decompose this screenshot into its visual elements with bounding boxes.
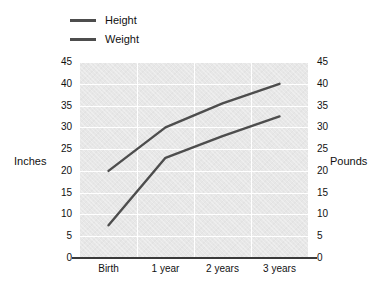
y-axis-right-tick-label: 15 — [317, 188, 339, 198]
legend-label-height: Height — [105, 15, 137, 26]
growth-chart: Height Weight Inches Pounds 454035302520… — [0, 0, 390, 297]
legend-label-weight: Weight — [105, 34, 139, 45]
y-axis-right-tick-label: 40 — [317, 79, 339, 89]
y-axis-right-tick-label: 0 — [317, 253, 339, 263]
chart-legend: Height Weight — [70, 14, 139, 46]
y-axis-right-tick-label: 5 — [317, 231, 339, 241]
x-axis-tick-label: 2 years — [206, 264, 239, 274]
y-axis-right-tick-label: 25 — [317, 144, 339, 154]
y-axis-right-tick-label: 30 — [317, 122, 339, 132]
y-axis-right-tick-label: 20 — [317, 166, 339, 176]
y-axis-right-tick-label: 45 — [317, 57, 339, 67]
x-axis-tick-label: 3 years — [263, 264, 296, 274]
plot-area — [80, 62, 308, 258]
y-axis-left-tick-label: 0 — [50, 253, 72, 263]
y-axis-left-tick-label: 40 — [50, 79, 72, 89]
y-axis-left-tick-label: 5 — [50, 231, 72, 241]
x-axis-line — [72, 257, 317, 259]
y-axis-right-tick-label: 10 — [317, 209, 339, 219]
y-axis-left-tick-label: 15 — [50, 188, 72, 198]
series-line-weight — [109, 116, 280, 225]
y-axis-left-tick-label: 45 — [50, 57, 72, 67]
series-lines — [80, 62, 308, 258]
legend-item-height: Height — [70, 14, 139, 27]
legend-swatch-weight-icon — [70, 38, 96, 41]
y-axis-left-tick-label: 10 — [50, 209, 72, 219]
y-axis-left-tick-label: 35 — [50, 101, 72, 111]
x-axis-tick-label: 1 year — [152, 264, 180, 274]
legend-swatch-height-icon — [70, 19, 96, 22]
y-axis-left-tick-label: 20 — [50, 166, 72, 176]
legend-item-weight: Weight — [70, 33, 139, 46]
y-axis-left-tick-label: 25 — [50, 144, 72, 154]
y-axis-left-tick-label: 30 — [50, 122, 72, 132]
y-axis-right-tick-label: 35 — [317, 101, 339, 111]
x-axis-tick-label: Birth — [98, 264, 119, 274]
y-axis-left-title: Inches — [14, 156, 46, 167]
series-line-height — [109, 84, 280, 171]
